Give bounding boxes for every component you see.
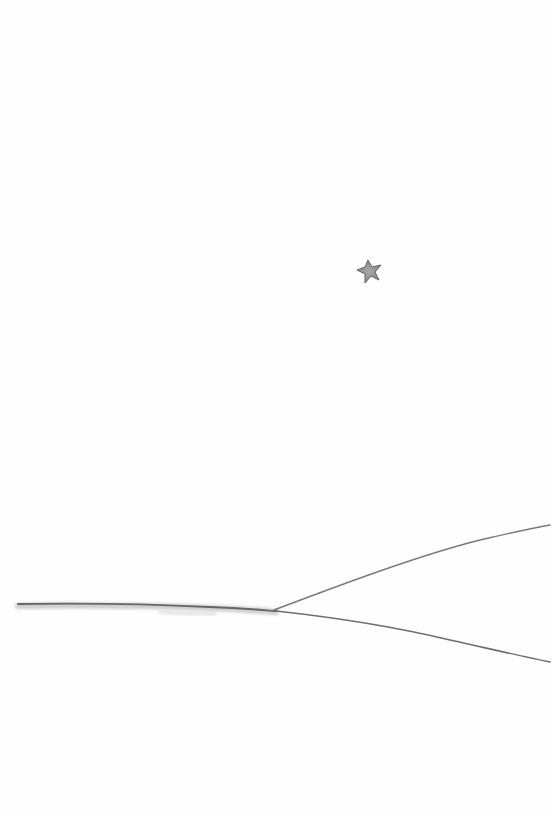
star-icon: [357, 260, 381, 283]
lower-branch-line: [276, 611, 550, 662]
watercolor-scene: [0, 0, 552, 816]
horizon-line: [18, 604, 276, 614]
illustration-canvas: Minimalist watercolor illustration: a si…: [0, 0, 552, 816]
upper-branch-line: [274, 525, 550, 610]
